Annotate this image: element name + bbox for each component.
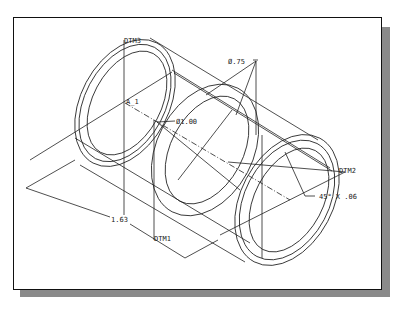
leader-inner-diameter — [157, 110, 240, 190]
cylinder-drawing: DTM3 A_1 Ø1.00 Ø.75 DTM2 45° X .06 1.63 … — [0, 0, 399, 311]
label-dtm1: DTM1 — [154, 235, 171, 243]
label-dtm2: DTM2 — [339, 167, 356, 175]
length-dimension — [26, 160, 218, 258]
label-dtm3: DTM3 — [124, 37, 141, 45]
label-outer-diameter: Ø.75 — [228, 58, 245, 66]
label-chamfer: 45° X .06 — [319, 193, 357, 201]
label-axis: A_1 — [126, 98, 139, 106]
label-inner-diameter: Ø1.00 — [176, 118, 197, 126]
label-length: 1.63 — [111, 216, 128, 224]
axis-line — [125, 103, 290, 200]
